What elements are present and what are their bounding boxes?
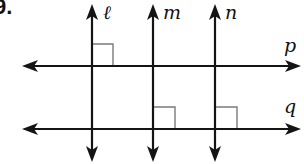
line-m (147, 4, 159, 162)
right-angle-mark-l-p (93, 44, 113, 65)
problem-number: 9. (0, 0, 12, 19)
line-p (22, 60, 301, 72)
label-p: p (284, 34, 296, 56)
label-n: n (225, 1, 237, 23)
label-m: m (163, 1, 181, 23)
right-angle-mark-n-q (216, 107, 237, 128)
line-q (22, 123, 301, 135)
parallel-perpendicular-lines-diagram: 9. ℓ m n p q (0, 0, 304, 164)
line-l (86, 4, 98, 162)
right-angle-mark-m-q (154, 107, 175, 128)
label-l: ℓ (103, 1, 111, 23)
line-n (209, 4, 221, 162)
label-q: q (284, 95, 296, 117)
